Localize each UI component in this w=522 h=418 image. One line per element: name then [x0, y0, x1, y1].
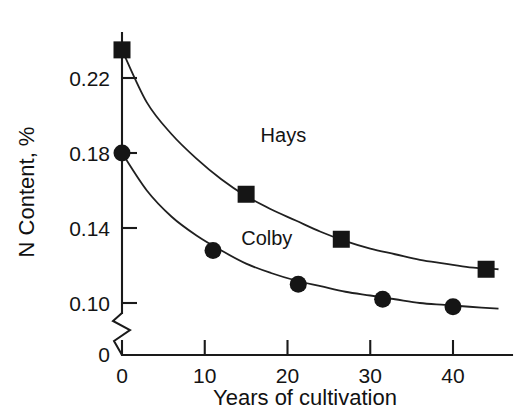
- x-axis-ticks: 010203040: [116, 340, 465, 387]
- series-curve-colby: [122, 153, 499, 309]
- x-tick-label: 30: [359, 364, 382, 387]
- x-axis-title: Years of cultivation: [213, 385, 397, 410]
- y-axis-ticks: 0.100.140.180.220: [69, 67, 137, 366]
- data-markers: [114, 41, 495, 315]
- fitted-curves: [122, 50, 499, 309]
- y-tick-label: 0.14: [69, 217, 110, 240]
- data-point-hays: [114, 41, 131, 58]
- data-point-colby: [205, 242, 222, 259]
- series-label-colby: Colby: [241, 227, 292, 249]
- x-tick-label: 20: [276, 364, 299, 387]
- figure-container: 0.100.140.180.220 010203040 HaysColby Ye…: [0, 0, 522, 418]
- y-tick-label: 0.10: [69, 292, 110, 315]
- data-point-colby: [445, 298, 462, 315]
- data-point-hays: [333, 231, 350, 248]
- x-tick-label: 0: [116, 364, 128, 387]
- series-curve-hays: [122, 50, 499, 269]
- y-tick-label: 0.18: [69, 142, 110, 165]
- data-point-colby: [114, 145, 131, 162]
- y-axis-title: N Content, %: [14, 127, 39, 258]
- chart-canvas: 0.100.140.180.220 010203040 HaysColby Ye…: [0, 0, 522, 418]
- data-point-hays: [238, 186, 255, 203]
- y-tick-label: 0.22: [69, 67, 110, 90]
- x-tick-label: 10: [193, 364, 216, 387]
- series-label-hays: Hays: [261, 124, 307, 146]
- data-point-colby: [374, 291, 391, 308]
- y-axis-zero-label: 0: [98, 343, 110, 366]
- x-tick-label: 40: [441, 364, 464, 387]
- data-point-hays: [478, 261, 495, 278]
- data-point-colby: [290, 276, 307, 293]
